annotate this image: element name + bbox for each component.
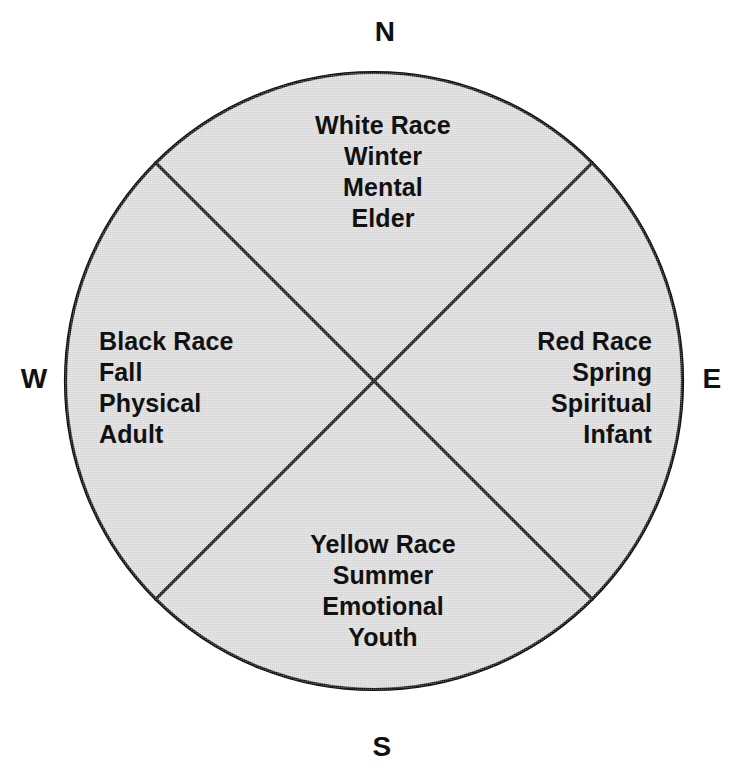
cardinal-label-east: E (690, 365, 734, 393)
quadrant-south-season: Summer (268, 560, 498, 591)
medicine-wheel-diagram: N E S W White Race Winter Mental Elder R… (0, 0, 744, 783)
quadrant-north: White Race Winter Mental Elder (268, 110, 498, 234)
quadrant-east: Red Race Spring Spiritual Infant (500, 326, 652, 450)
quadrant-east-life-stage: Infant (500, 419, 652, 450)
cardinal-label-south: S (358, 733, 406, 761)
quadrant-north-life-stage: Elder (268, 203, 498, 234)
quadrant-north-aspect: Mental (268, 172, 498, 203)
quadrant-south-life-stage: Youth (268, 622, 498, 653)
quadrant-west-season: Fall (99, 357, 279, 388)
cardinal-label-west: W (12, 365, 56, 393)
quadrant-south: Yellow Race Summer Emotional Youth (268, 529, 498, 653)
quadrant-west-race: Black Race (99, 326, 279, 357)
quadrant-west-aspect: Physical (99, 388, 279, 419)
quadrant-south-aspect: Emotional (268, 591, 498, 622)
quadrant-west: Black Race Fall Physical Adult (99, 326, 279, 450)
quadrant-north-season: Winter (268, 141, 498, 172)
quadrant-east-race: Red Race (500, 326, 652, 357)
quadrant-east-aspect: Spiritual (500, 388, 652, 419)
quadrant-south-race: Yellow Race (268, 529, 498, 560)
cardinal-label-north: N (361, 18, 409, 46)
quadrant-east-season: Spring (500, 357, 652, 388)
quadrant-north-race: White Race (268, 110, 498, 141)
quadrant-west-life-stage: Adult (99, 419, 279, 450)
